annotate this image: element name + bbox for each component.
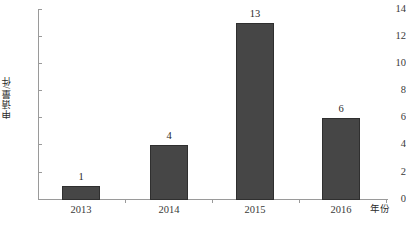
y-tick-label-4: 4 [376, 139, 406, 150]
x-tick-label-2013: 2013 [51, 205, 111, 216]
bar-2016 [322, 118, 360, 200]
bar-value-2013: 1 [61, 172, 101, 183]
y-tick-label-8: 8 [376, 85, 406, 96]
bar-chart: 申请量/件 14 12 10 8 6 4 2 0 1 4 13 6 2013 2… [0, 0, 406, 229]
x-tick-label-2015: 2015 [225, 205, 285, 216]
bar-2014 [150, 145, 188, 200]
x-axis-title: 年份 [370, 205, 390, 215]
bar-value-2016: 6 [321, 104, 361, 115]
x-tick-mark-1 [125, 199, 126, 203]
y-axis-title: 申请量/件 [2, 76, 16, 119]
bar-2015 [236, 23, 274, 200]
y-axis-line [38, 10, 39, 200]
bar-value-2014: 4 [149, 131, 189, 142]
x-tick-mark-3 [299, 199, 300, 203]
x-tick-label-2014: 2014 [139, 205, 199, 216]
y-tick-label-10: 10 [376, 58, 406, 69]
bar-2013 [62, 186, 100, 200]
bar-value-2015: 13 [235, 9, 275, 20]
x-tick-mark-4 [386, 199, 387, 203]
y-tick-label-6: 6 [376, 112, 406, 123]
y-tick-label-12: 12 [376, 31, 406, 42]
x-tick-mark-2 [212, 199, 213, 203]
y-tick-label-14: 14 [376, 4, 406, 15]
y-tick-label-2: 2 [376, 167, 406, 178]
x-tick-label-2016: 2016 [311, 205, 371, 216]
